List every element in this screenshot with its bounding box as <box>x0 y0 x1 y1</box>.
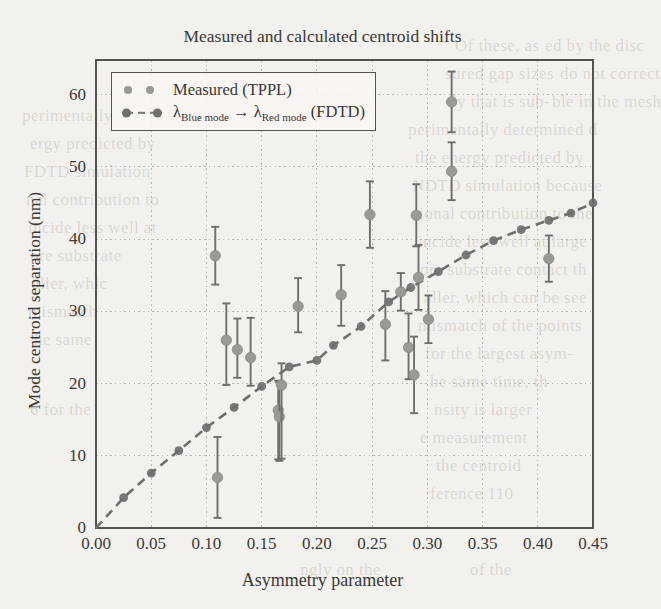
errorbar-point <box>446 142 456 200</box>
errorbar-point <box>446 72 456 133</box>
legend-arrow: → <box>229 102 254 121</box>
y-tick-3: 30 <box>40 301 86 321</box>
x-axis-label: Asymmetry parameter <box>0 570 645 591</box>
errorbar-point <box>221 303 231 385</box>
legend-lambda-blue: λ <box>173 102 181 121</box>
legend-label-fdtd: λBlue mode → λRed mode (FDTD) <box>173 102 365 123</box>
errorbar-point <box>544 236 554 282</box>
y-tick-1: 10 <box>40 446 86 466</box>
legend-label-measured: Measured (TPPL) <box>173 80 292 100</box>
legend-key-measured-dots <box>120 83 166 97</box>
errorbar-point <box>411 184 421 246</box>
x-tick-6: 0.30 <box>412 534 442 554</box>
errorbar-point <box>403 314 413 380</box>
x-tick-9: 0.45 <box>578 534 608 554</box>
legend-fdtd-suffix: (FDTD) <box>307 102 365 121</box>
legend-key-fdtd-dashed-line <box>120 106 166 120</box>
errorbar-point <box>423 295 433 343</box>
y-tick-2: 20 <box>40 374 86 394</box>
x-tick-4: 0.20 <box>302 534 332 554</box>
legend-lambda-red: λ <box>254 102 262 121</box>
errorbar-point <box>210 227 220 285</box>
x-tick-2: 0.10 <box>192 534 222 554</box>
errorbar-point <box>293 278 303 332</box>
y-tick-6: 60 <box>40 85 86 105</box>
legend-item-fdtd: λBlue mode → λRed mode (FDTD) <box>120 101 365 124</box>
errorbar-point <box>413 245 423 310</box>
errorbar-point <box>274 382 284 461</box>
legend-item-measured: Measured (TPPL) <box>120 78 365 101</box>
errorbar-point <box>212 437 222 518</box>
x-tick-1: 0.05 <box>136 534 166 554</box>
y-tick-5: 50 <box>40 157 86 177</box>
errorbar-point <box>232 319 242 378</box>
x-tick-8: 0.40 <box>523 534 553 554</box>
errorbar-point <box>336 265 346 326</box>
errorbar-point <box>396 273 406 311</box>
x-tick-7: 0.35 <box>468 534 498 554</box>
y-tick-4: 40 <box>40 229 86 249</box>
chart-legend: Measured (TPPL) λBlue mode → λRed mode (… <box>111 72 376 131</box>
errorbar-point <box>245 318 255 386</box>
legend-sub-blue: Blue mode <box>181 111 229 123</box>
x-tick-3: 0.15 <box>247 534 277 554</box>
y-tick-0: 0 <box>40 518 86 538</box>
errorbar-point <box>365 181 375 247</box>
x-tick-5: 0.25 <box>357 534 387 554</box>
legend-sub-red: Red mode <box>262 111 307 123</box>
